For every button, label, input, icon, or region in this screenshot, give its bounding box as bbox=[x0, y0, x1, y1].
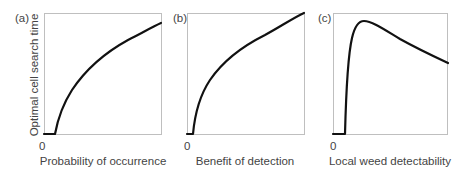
panel-a-zero-tick: 0 bbox=[39, 140, 45, 152]
panel-b-frame bbox=[188, 14, 305, 135]
panel-c: (c) 0 Local weed detectability bbox=[318, 12, 451, 167]
panel-a-label: (a) bbox=[15, 12, 29, 24]
panel-c-curve bbox=[333, 21, 448, 134]
panel-b: (b) 0 Benefit of detection bbox=[173, 12, 305, 167]
figure: Optimal cell search time (a) 0 Probabili… bbox=[0, 0, 460, 170]
panel-b-curve bbox=[187, 13, 304, 134]
panel-c-label: (c) bbox=[318, 12, 332, 24]
y-axis-label: Optimal cell search time bbox=[28, 14, 40, 137]
panel-b-label: (b) bbox=[173, 12, 187, 24]
panel-a-x-label: Probability of occurrence bbox=[40, 155, 167, 167]
panel-a-curve bbox=[44, 23, 161, 134]
panel-b-x-label: Benefit of detection bbox=[196, 155, 294, 167]
panel-c-x-label: Local weed detectability bbox=[329, 155, 451, 167]
panel-c-zero-tick: 0 bbox=[330, 140, 336, 152]
panel-c-frame bbox=[334, 14, 448, 135]
panel-b-zero-tick: 0 bbox=[184, 140, 190, 152]
